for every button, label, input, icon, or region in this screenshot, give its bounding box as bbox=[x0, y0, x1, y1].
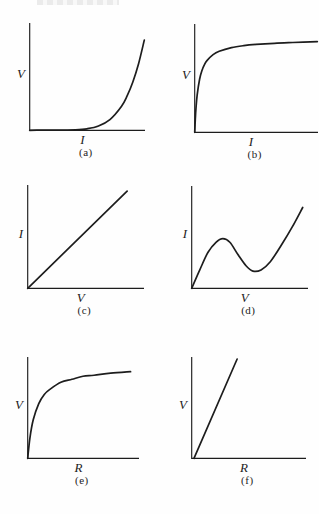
y-axis-label-b: V bbox=[182, 68, 190, 81]
plot-b bbox=[194, 24, 318, 133]
graph-panel-f: V R (f) bbox=[191, 357, 306, 459]
y-axis-label-f: V bbox=[179, 398, 187, 411]
y-axis-label-d: I bbox=[183, 227, 187, 240]
x-axis-label-e: R bbox=[75, 461, 83, 474]
x-axis-label-f: R bbox=[240, 461, 248, 474]
panel-caption-b: (b) bbox=[248, 149, 262, 160]
panel-caption-d: (d) bbox=[241, 305, 255, 316]
graph-panel-b: V I (b) bbox=[194, 24, 318, 133]
figure-page: V I (a) V I (b) I V (c) I V (d) V R (e) … bbox=[0, 0, 319, 514]
graph-panel-c: I V (c) bbox=[27, 185, 144, 289]
x-axis-label-b: I bbox=[249, 135, 253, 148]
y-axis-label-a: V bbox=[17, 67, 25, 80]
panel-caption-c: (c) bbox=[77, 305, 91, 316]
plot-c bbox=[27, 185, 144, 289]
panel-caption-a: (a) bbox=[79, 147, 93, 158]
x-axis-label-a: I bbox=[80, 133, 84, 146]
graph-panel-e: V R (e) bbox=[27, 357, 139, 459]
graph-panel-a: V I (a) bbox=[29, 23, 145, 131]
cropped-header-smudge bbox=[37, 0, 119, 5]
plot-d bbox=[191, 186, 308, 289]
plot-a bbox=[29, 23, 145, 131]
panel-caption-f: (f) bbox=[241, 475, 254, 486]
plot-e bbox=[27, 357, 139, 459]
panel-caption-e: (e) bbox=[75, 475, 89, 486]
y-axis-label-e: V bbox=[15, 398, 23, 411]
y-axis-label-c: I bbox=[19, 227, 23, 240]
x-axis-label-d: V bbox=[241, 291, 249, 304]
plot-f bbox=[191, 357, 306, 459]
x-axis-label-c: V bbox=[77, 291, 85, 304]
graph-panel-d: I V (d) bbox=[191, 186, 308, 289]
